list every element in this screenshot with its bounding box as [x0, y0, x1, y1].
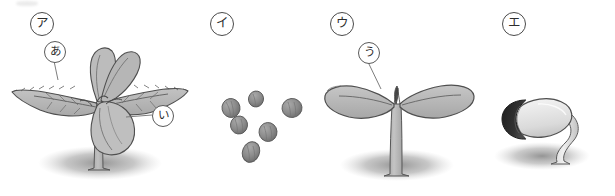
seed-6: [239, 139, 263, 165]
leader-line-a-hiragana: [54, 61, 58, 80]
panel-b: イ: [195, 0, 315, 196]
panel-a: ア: [0, 0, 195, 196]
part-label-u-hiragana: う: [358, 42, 380, 64]
panel-d: エ: [480, 0, 615, 196]
seedling-illustration-c: [315, 0, 480, 196]
seed-2: [247, 89, 265, 108]
part-label-a-hiragana: あ: [44, 41, 66, 63]
cotyledon-right-c: [400, 85, 474, 118]
ground-shadow-d: [494, 142, 590, 170]
seed-4: [229, 115, 248, 135]
panel-c: ウ: [315, 0, 480, 196]
seed-3: [281, 98, 303, 119]
figure-canvas: ア: [0, 0, 615, 196]
germinating-seed-illustration-d: [480, 0, 615, 196]
part-label-i-hiragana: い: [152, 105, 174, 127]
seed-5: [258, 122, 277, 142]
seeds-illustration-b: [195, 0, 315, 196]
shoot-tip-c: [395, 86, 398, 104]
seed-group: [220, 89, 303, 164]
true-leaf-left: [12, 90, 97, 116]
plant-illustration-a: [0, 0, 195, 196]
leader-line-u-hiragana: [368, 62, 381, 89]
